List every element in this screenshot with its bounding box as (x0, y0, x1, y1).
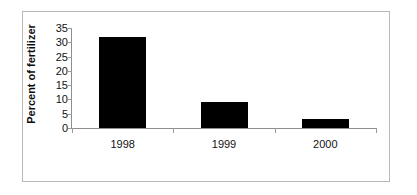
y-axis-tick-mark (68, 114, 72, 115)
bar[interactable] (201, 102, 248, 128)
x-axis-line (71, 128, 376, 129)
y-axis-tick-label: 5 (46, 108, 68, 119)
y-axis-tick-mark (68, 28, 72, 29)
bar[interactable] (99, 37, 146, 128)
bar[interactable] (302, 119, 349, 128)
x-axis-tick-labels: 199819992000 (72, 138, 376, 154)
y-axis-tick-mark (68, 42, 72, 43)
x-axis-category-tick (376, 128, 377, 133)
y-axis-title-text: Percent of fertilizer (25, 24, 37, 124)
y-axis-tick-mark (68, 99, 72, 100)
x-axis-tick-label: 1998 (110, 138, 134, 150)
x-axis-category-tick (275, 128, 276, 133)
y-axis-tick-mark (68, 85, 72, 86)
y-axis-tick-label: 20 (46, 65, 68, 76)
y-axis-tick-label: 15 (46, 80, 68, 91)
x-axis-tick-label: 1999 (212, 138, 236, 150)
y-axis-tick-label: 25 (46, 51, 68, 62)
plot-region (72, 28, 376, 128)
y-axis-tick-label: 10 (46, 94, 68, 105)
y-axis-title: Percent of fertilizer (22, 18, 40, 130)
y-axis-tick-label: 35 (46, 23, 68, 34)
y-axis-tick-label: 30 (46, 37, 68, 48)
y-axis-tick-label: 0 (46, 123, 68, 134)
x-axis-tick-label: 2000 (313, 138, 337, 150)
bar-chart: Percent of fertilizer 05101520253035 199… (0, 0, 417, 195)
y-axis-tick-mark (68, 57, 72, 58)
x-axis-category-tick (72, 128, 73, 133)
y-axis-tick-mark (68, 71, 72, 72)
y-axis-tick-labels: 05101520253035 (46, 24, 68, 128)
x-axis-category-tick (173, 128, 174, 133)
